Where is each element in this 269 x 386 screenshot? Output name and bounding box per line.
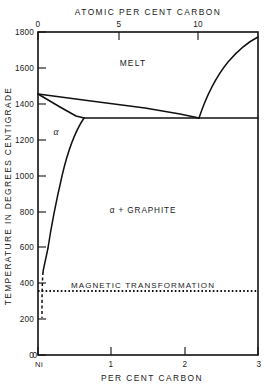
region-label-melt: MELT	[120, 58, 147, 68]
left-tick-label-600: 600	[20, 243, 35, 252]
left-axis-title: TEMPERATURE IN DEGREES CENTIGRADE	[3, 87, 13, 305]
solvus-dashed-extrapolation	[42, 272, 43, 318]
top-tick-label-10: 10	[193, 20, 203, 29]
graphite-liquidus-curve	[199, 37, 258, 118]
phase-diagram-svg: 0 5 10 ATOMIC PER CENT CARBON 0 1 2 3 Ni…	[0, 0, 269, 386]
left-tick-label-800: 800	[20, 208, 35, 217]
left-tick-label-1200: 1200	[15, 136, 34, 145]
left-tick-label-200: 200	[20, 315, 35, 324]
bottom-tick-label-1: 1	[109, 360, 114, 369]
top-tick-label-5: 5	[117, 20, 122, 29]
top-axis-tick-labels: 0 5 10	[36, 20, 203, 29]
region-label-alpha: α	[53, 126, 59, 137]
top-tick-label-0: 0	[36, 20, 41, 29]
left-tick-label-1400: 1400	[15, 100, 34, 109]
phase-diagram-figure: 0 5 10 ATOMIC PER CENT CARBON 0 1 2 3 Ni…	[0, 0, 269, 386]
bottom-axis-endpoint-label: Ni	[35, 360, 43, 369]
left-tick-label-400: 400	[20, 279, 35, 288]
left-axis-tick-labels: 0 200 400 600 800 1000 1200 1400 1600 18…	[15, 28, 34, 360]
bottom-axis-tick-labels: 0 1 2 3	[33, 351, 262, 369]
bottom-axis-ticks	[38, 347, 258, 355]
annotation-magnetic-transformation: MAGNETIC TRANSFORMATION	[71, 281, 215, 290]
phase-boundaries	[38, 37, 258, 318]
bottom-tick-label-3: 3	[257, 360, 262, 369]
solvus-curve	[48, 118, 84, 248]
left-tick-label-1800: 1800	[15, 28, 34, 37]
top-axis-ticks	[38, 32, 198, 40]
bottom-tick-label-2: 2	[183, 360, 188, 369]
plot-frame	[38, 32, 258, 355]
region-label-alpha-graphite: α + GRAPHITE	[110, 206, 177, 215]
liquidus-curve	[38, 94, 199, 118]
left-tick-label-1600: 1600	[15, 64, 34, 73]
top-axis-title: ATOMIC PER CENT CARBON	[75, 7, 221, 17]
left-tick-label-0: 0	[29, 351, 34, 360]
left-tick-label-1000: 1000	[15, 172, 34, 181]
bottom-axis-title: PER CENT CARBON	[101, 373, 203, 383]
solvus-curve-lower	[43, 248, 48, 272]
